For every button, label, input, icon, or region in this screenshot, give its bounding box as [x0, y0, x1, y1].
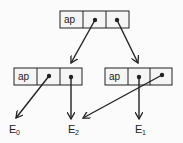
- diagram-canvas: ap ap ap E: [0, 0, 183, 143]
- node-top: ap: [60, 11, 129, 28]
- diagram-svg: ap ap ap E: [0, 0, 183, 143]
- label-e1: E 1: [135, 123, 146, 136]
- label-e2: E 2: [68, 123, 79, 136]
- node-right-tag: ap: [109, 71, 121, 82]
- svg-text:0: 0: [16, 129, 20, 136]
- label-e0: E 0: [9, 123, 20, 136]
- svg-text:1: 1: [142, 129, 146, 136]
- node-left-tag: ap: [18, 71, 30, 82]
- svg-text:2: 2: [75, 129, 79, 136]
- node-top-tag: ap: [64, 14, 76, 25]
